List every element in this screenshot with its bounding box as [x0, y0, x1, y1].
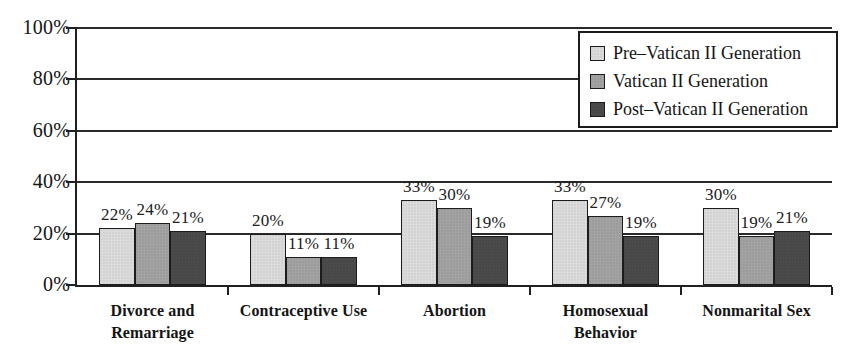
bar-value-label: 27% [580, 194, 632, 211]
legend-swatch-post-vatican-ii [590, 102, 605, 117]
bar [135, 223, 171, 285]
bar [774, 231, 810, 285]
y-axis-tick-mark [66, 130, 77, 132]
bar [739, 236, 775, 285]
bar [170, 231, 206, 285]
bar [401, 200, 437, 285]
x-axis-tick-mark [227, 287, 229, 295]
bar [321, 257, 357, 285]
bar [99, 228, 135, 285]
bar-group: 22%24%21% [99, 28, 206, 285]
legend-item: Pre–Vatican II Generation [590, 39, 836, 67]
x-axis-category-label-line: Nonmarital Sex [669, 300, 844, 322]
y-axis-tick-label: 40% [6, 171, 70, 191]
bar-value-label: 21% [766, 209, 818, 226]
bar [286, 257, 322, 285]
y-axis-tick-label: 60% [6, 120, 70, 140]
x-axis-tick-mark [378, 287, 380, 295]
x-axis-category-label-line: Behavior [518, 322, 693, 344]
y-axis-tick-mark [66, 181, 77, 183]
x-axis-category-label-line: Abortion [367, 300, 542, 322]
legend-item-label: Vatican II Generation [613, 71, 768, 91]
y-axis: 0%20%40%60%80%100% [0, 0, 70, 360]
y-axis-tick-label: 100% [6, 17, 70, 37]
x-axis-category-label: Nonmarital Sex [669, 300, 844, 322]
x-axis-tick-mark [680, 287, 682, 295]
bar-value-label: 21% [162, 209, 214, 226]
bar-value-label: 19% [615, 214, 667, 231]
bar-value-label: 30% [695, 186, 747, 203]
x-axis-category-label: HomosexualBehavior [518, 300, 693, 344]
legend-swatch-vatican-ii [590, 74, 605, 89]
bar [472, 236, 508, 285]
bar-value-label: 20% [242, 212, 294, 229]
bar [623, 236, 659, 285]
legend-item-label: Post–Vatican II Generation [613, 99, 808, 119]
bar-value-label: 30% [429, 186, 481, 203]
x-axis-category-label: Contraceptive Use [216, 300, 391, 322]
bar-group: 33%30%19% [401, 28, 508, 285]
y-axis-tick-label: 0% [6, 274, 70, 294]
x-axis-tick-mark [529, 287, 531, 295]
x-axis-category-label-line: Homosexual [518, 300, 693, 322]
bar-value-label: 19% [464, 214, 516, 231]
bar [552, 200, 588, 285]
legend-item: Post–Vatican II Generation [590, 95, 836, 123]
y-axis-tick-mark [66, 78, 77, 80]
x-axis-category-label: Divorce andRemarriage [65, 300, 240, 344]
y-axis-tick-mark [66, 27, 77, 29]
x-axis-category-label-line: Contraceptive Use [216, 300, 391, 322]
x-axis-category-label: Abortion [367, 300, 542, 322]
x-axis-line [75, 285, 832, 287]
bar-group: 20%11%11% [250, 28, 357, 285]
chart-legend: Pre–Vatican II GenerationVatican II Gene… [578, 31, 838, 128]
bar-chart: 0%20%40%60%80%100% 22%24%21%20%11%11%33%… [0, 0, 848, 360]
y-axis-tick-mark [66, 284, 77, 286]
y-axis-tick-label: 80% [6, 68, 70, 88]
x-axis-tick-mark [831, 287, 833, 295]
y-axis-tick-mark [66, 233, 77, 235]
legend-swatch-pre-vatican-ii [590, 46, 605, 61]
x-axis-category-label-line: Remarriage [65, 322, 240, 344]
x-axis-category-labels: Divorce andRemarriageContraceptive UseAb… [77, 300, 832, 360]
x-axis-category-label-line: Divorce and [65, 300, 240, 322]
y-axis-tick-label: 20% [6, 223, 70, 243]
bar-value-label: 11% [313, 235, 365, 252]
legend-item: Vatican II Generation [590, 67, 836, 95]
legend-item-label: Pre–Vatican II Generation [613, 43, 801, 63]
